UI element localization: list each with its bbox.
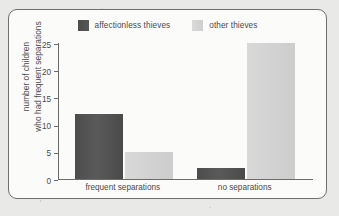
y-axis-title: number of children who had frequent sepa… [21, 2, 44, 152]
y-axis-title-line1: number of children [21, 2, 33, 152]
y-tick-mark [54, 71, 58, 72]
bar-group-container [59, 43, 313, 179]
plot-area: number of children who had frequent sepa… [9, 10, 326, 198]
y-tick-label: 25 [42, 40, 51, 49]
y-tick-label: 5 [46, 149, 51, 158]
y-tick-mark [54, 44, 58, 45]
y-tick-label: 0 [46, 176, 51, 185]
bar-frequent-separations-other-thieves [125, 152, 173, 179]
x-category-label-0: frequent separations [85, 183, 160, 192]
y-tick-25: 25 [54, 44, 58, 45]
y-tick-label: 20 [42, 67, 51, 76]
bar-no-separations-affectionless-thieves [197, 168, 245, 179]
y-tick-10: 10 [54, 126, 58, 127]
y-tick-0: 0 [54, 180, 58, 181]
x-axis-category-labels: frequent separationsno separations [58, 183, 313, 197]
y-tick-mark [54, 98, 58, 99]
y-tick-20: 20 [54, 71, 58, 72]
y-tick-label: 15 [42, 94, 51, 103]
y-tick-label: 10 [42, 122, 51, 131]
screenshot-canvas: affectionless thieves other thieves numb… [0, 0, 339, 216]
bar-no-separations-other-thieves [247, 43, 295, 179]
x-category-label-1: no separations [218, 183, 272, 192]
y-tick-mark [54, 126, 58, 127]
y-tick-mark [54, 153, 58, 154]
axes: 0510152025 [58, 43, 313, 180]
bar-frequent-separations-affectionless-thieves [75, 114, 123, 179]
y-tick-mark [54, 180, 58, 181]
y-tick-5: 5 [54, 153, 58, 154]
chart-frame: affectionless thieves other thieves numb… [8, 9, 327, 199]
y-tick-15: 15 [54, 98, 58, 99]
